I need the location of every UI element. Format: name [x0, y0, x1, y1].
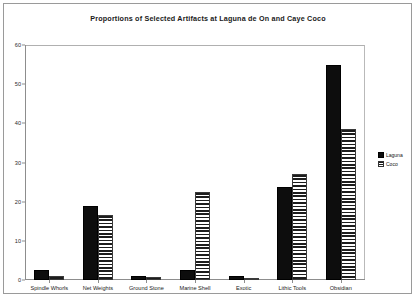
bar-laguna [131, 276, 146, 280]
bar-groups: Spindle WhorlsNet WeightsGround StoneMar… [25, 45, 365, 280]
bar-coco [98, 215, 113, 280]
x-axis-tick-mark [146, 280, 147, 283]
bar-coco [341, 129, 356, 280]
chart-legend: Laguna Coco [378, 152, 411, 170]
bar-pair [34, 45, 64, 280]
y-axis-tick-label: 40 [15, 120, 21, 126]
x-axis-tick-mark [341, 280, 342, 283]
y-axis-tick-label: 30 [15, 160, 21, 166]
bar-group: Lithic Tools [268, 45, 317, 280]
x-axis-tick-mark [195, 280, 196, 283]
bar-group: Net Weights [74, 45, 123, 280]
chart-title: Proportions of Selected Artifacts at Lag… [0, 14, 416, 23]
bar-pair [83, 45, 113, 280]
bar-pair [180, 45, 210, 280]
bar-group: Marine Shell [171, 45, 220, 280]
y-axis-tick-label: 60 [15, 42, 21, 48]
bar-laguna [34, 270, 49, 280]
legend-label-coco: Coco [386, 162, 398, 167]
x-axis-tick-label: Exotic [236, 285, 251, 291]
bar-pair [229, 45, 259, 280]
bar-coco [292, 174, 307, 280]
legend-item-laguna: Laguna [378, 152, 411, 158]
x-axis-tick-mark [98, 280, 99, 283]
bar-coco [49, 276, 64, 280]
x-axis-tick-label: Ground Stone [129, 285, 164, 291]
x-axis-tick-mark [244, 280, 245, 283]
bar-laguna [277, 187, 292, 280]
bar-laguna [326, 65, 341, 280]
bar-coco [146, 277, 161, 280]
bar-pair [277, 45, 307, 280]
legend-swatch-coco [378, 161, 384, 167]
bar-laguna [83, 206, 98, 280]
bar-coco [195, 192, 210, 280]
x-axis-tick-label: Net Weights [83, 285, 113, 291]
bar-group: Spindle Whorls [25, 45, 74, 280]
y-axis-tick-label: 20 [15, 199, 21, 205]
plot-area: 0102030405060 Spindle WhorlsNet WeightsG… [25, 45, 365, 280]
bar-pair [131, 45, 161, 280]
bar-group: Obsidian [316, 45, 365, 280]
x-axis-tick-label: Spindle Whorls [30, 285, 68, 291]
y-axis-tick-label: 10 [15, 238, 21, 244]
x-axis-tick-mark [292, 280, 293, 283]
legend-swatch-laguna [378, 152, 384, 158]
bar-group: Ground Stone [122, 45, 171, 280]
x-axis-tick-label: Obsidian [330, 285, 352, 291]
bar-group: Exotic [219, 45, 268, 280]
legend-label-laguna: Laguna [386, 153, 403, 158]
bar-coco [244, 278, 259, 280]
chart-figure: Proportions of Selected Artifacts at Lag… [0, 0, 416, 298]
x-axis-tick-label: Lithic Tools [278, 285, 306, 291]
bar-pair [326, 45, 356, 280]
x-axis-tick-label: Marine Shell [179, 285, 210, 291]
bar-laguna [229, 276, 244, 280]
x-axis-tick-mark [49, 280, 50, 283]
y-axis-tick-label: 0 [18, 277, 21, 283]
legend-item-coco: Coco [378, 161, 411, 167]
bar-laguna [180, 270, 195, 280]
y-axis-tick-label: 50 [15, 81, 21, 87]
